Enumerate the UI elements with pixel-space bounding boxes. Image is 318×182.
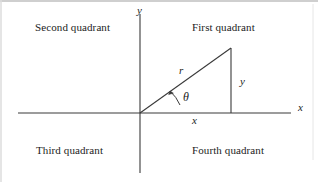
quadrant-label-second: Second quadrant: [35, 21, 110, 33]
y-axis-label: y: [137, 4, 142, 16]
x-axis-label: x: [298, 101, 303, 113]
coordinate-plane-figure: Second quadrant First quadrant Third qua…: [0, 0, 318, 182]
theta-angle-label: θ: [183, 90, 189, 105]
triangle-side-label-y: y: [240, 75, 245, 87]
triangle-side-label-r: r: [179, 64, 183, 76]
quadrant-label-first: First quadrant: [192, 21, 255, 33]
triangle-side-label-x: x: [192, 114, 197, 126]
quadrant-label-third: Third quadrant: [36, 144, 103, 156]
quadrant-label-fourth: Fourth quadrant: [192, 144, 264, 156]
